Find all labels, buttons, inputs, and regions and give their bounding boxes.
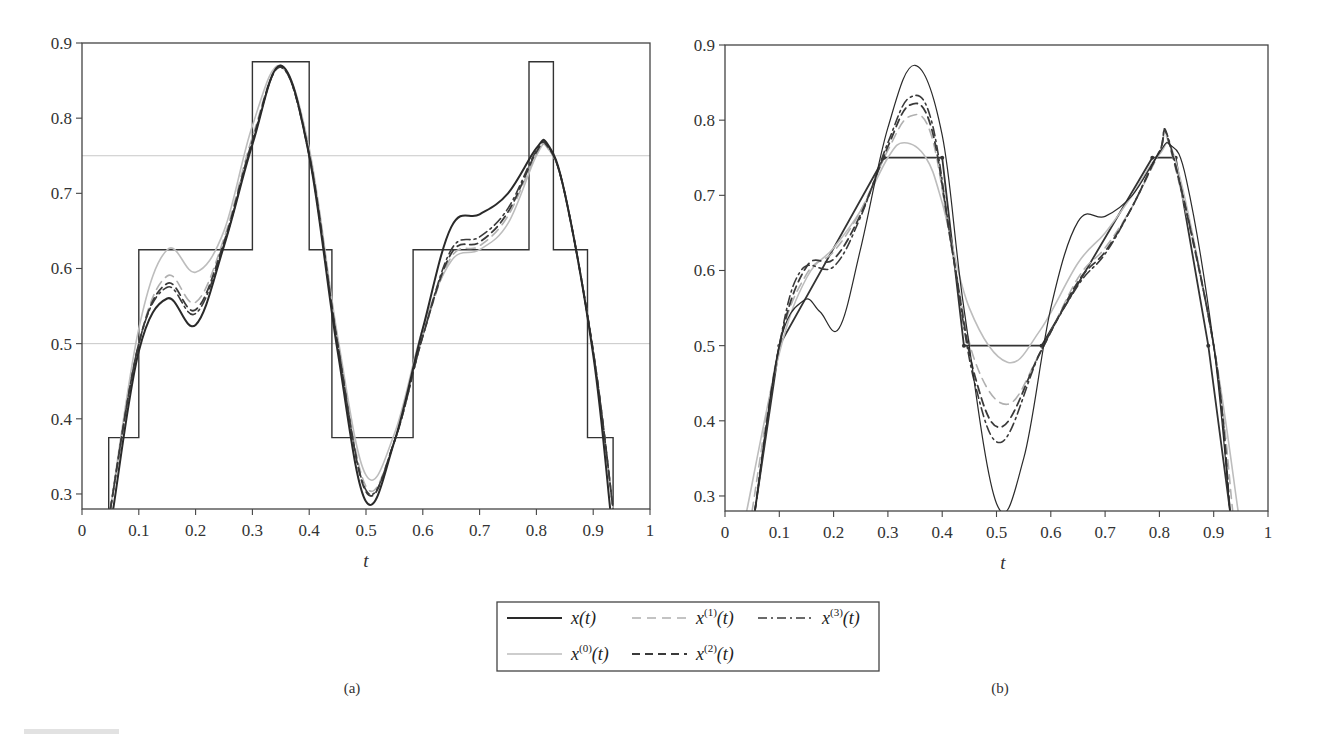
x-tick-label: 0.7: [469, 521, 491, 540]
legend: x(t)x(1)(t)x(3)(t)x(0)(t)x(2)(t): [497, 602, 879, 671]
y-tick-label: 0.9: [694, 36, 715, 55]
x-axis-label: t: [363, 550, 369, 571]
y-tick-label: 0.8: [51, 109, 72, 128]
y-tick-label: 0.6: [694, 261, 715, 280]
axis-ticks: 00.10.20.30.40.50.60.70.80.910.30.40.50.…: [694, 36, 1273, 542]
x-tick-label: 0.7: [1094, 523, 1116, 542]
caption-fragment: [24, 729, 119, 734]
x-axis-label: t: [1000, 552, 1006, 573]
x-tick-label: 0.8: [1149, 523, 1170, 542]
x-tick-label: 0.3: [242, 521, 263, 540]
x-tick-label: 0.9: [1203, 523, 1224, 542]
panel-label: (b): [991, 680, 1009, 697]
node-marker: [940, 156, 944, 160]
x-tick-label: 1: [646, 521, 655, 540]
x-tick-label: 0.9: [583, 521, 604, 540]
series-x: [113, 65, 610, 509]
x-tick-label: 0.5: [986, 523, 1007, 542]
step-function-line: [109, 62, 613, 509]
polyline-function-line: [755, 158, 1230, 511]
y-tick-label: 0.6: [51, 259, 72, 278]
x-tick-label: 0.1: [769, 523, 790, 542]
y-tick-label: 0.4: [694, 412, 716, 431]
x-tick-label: 0.6: [412, 521, 433, 540]
x-tick-label: 0.4: [299, 521, 321, 540]
node-marker: [962, 344, 966, 348]
series-group: [747, 65, 1238, 513]
y-tick-label: 0.5: [51, 335, 72, 354]
axis-ticks: 00.10.20.30.40.50.60.70.80.910.30.40.50.…: [51, 34, 655, 540]
x-tick-label: 0.2: [823, 523, 844, 542]
y-tick-label: 0.9: [51, 34, 72, 53]
y-tick-label: 0.5: [694, 337, 715, 356]
series-x3: [110, 67, 613, 509]
x-tick-label: 0.6: [1040, 523, 1061, 542]
y-tick-label: 0.7: [694, 186, 716, 205]
figure: 00.10.20.30.40.50.60.70.80.910.30.40.50.…: [0, 0, 1327, 734]
y-tick-label: 0.8: [694, 111, 715, 130]
panel-label: (a): [344, 680, 361, 697]
chart-panel-b: 00.10.20.30.40.50.60.70.80.910.30.40.50.…: [694, 36, 1273, 697]
x-tick-label: 0.1: [128, 521, 149, 540]
chart-panel-a: 00.10.20.30.40.50.60.70.80.910.30.40.50.…: [51, 34, 655, 697]
series-x: [755, 65, 1230, 513]
series-x2: [110, 67, 613, 509]
series-x1: [110, 67, 613, 509]
series-x1: [752, 115, 1233, 511]
series-group: [110, 65, 613, 509]
y-tick-label: 0.7: [51, 184, 73, 203]
y-tick-label: 0.3: [694, 487, 715, 506]
x-tick-label: 0: [721, 523, 730, 542]
legend-label: x(t): [570, 608, 596, 629]
x-tick-label: 1: [1264, 523, 1273, 542]
y-tick-label: 0.4: [51, 410, 73, 429]
x-tick-label: 0.5: [355, 521, 376, 540]
series-x2: [755, 103, 1230, 511]
x-tick-label: 0.8: [526, 521, 547, 540]
y-tick-label: 0.3: [51, 485, 72, 504]
node-marker: [1206, 344, 1210, 348]
x-tick-label: 0.4: [932, 523, 954, 542]
x-tick-label: 0.2: [185, 521, 206, 540]
x-tick-label: 0.3: [877, 523, 898, 542]
series-x0: [110, 65, 613, 509]
polyline-function: [755, 156, 1230, 511]
step-function: [109, 62, 613, 509]
x-tick-label: 0: [78, 521, 87, 540]
node-marker: [1150, 156, 1154, 160]
series-x0: [747, 142, 1238, 511]
